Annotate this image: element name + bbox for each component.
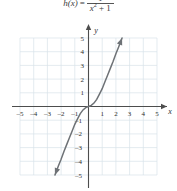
y-tick-label: –4 — [74, 158, 83, 166]
plot-area: x y –5 –4 –3 –2 –1 1 2 3 4 5 5 4 3 2 — [0, 16, 177, 191]
fraction-denominator: x2 + 1 — [87, 3, 114, 13]
equals-sign: = — [80, 0, 85, 8]
y-tick-label: –2 — [74, 130, 83, 138]
x-tick-label: –2 — [57, 110, 66, 118]
x-tick-label: 4 — [142, 110, 146, 118]
denominator-rest: + 1 — [99, 3, 111, 13]
x-axis-arrowhead — [161, 104, 167, 109]
graph-svg: x y –5 –4 –3 –2 –1 1 2 3 4 5 5 4 3 2 — [0, 16, 177, 191]
x-tick-label: 3 — [128, 110, 132, 118]
y-tick-label: 4 — [81, 48, 85, 56]
denominator-exponent: 2 — [94, 2, 97, 8]
x-tick-label: 1 — [100, 110, 104, 118]
x-tick-label: –5 — [16, 110, 25, 118]
y-tick-label: 1 — [81, 89, 85, 97]
curve-arrowhead-upper — [117, 38, 122, 46]
x-tick-label: –3 — [43, 110, 52, 118]
curve-arrowhead-lower — [55, 167, 60, 175]
y-tick-label: 3 — [81, 62, 85, 70]
y-tick-label: –5 — [74, 172, 83, 180]
x-tick-label: 2 — [114, 110, 118, 118]
function-formula: h(x)=1x2 + 1 — [0, 0, 177, 14]
function-name: h(x) — [63, 0, 78, 8]
y-tick-label: –3 — [74, 144, 83, 152]
figure-container: h(x)=1x2 + 1 — [0, 0, 177, 191]
y-axis-arrowhead — [86, 24, 91, 30]
y-axis-label: y — [93, 26, 98, 35]
fraction: 1x2 + 1 — [87, 0, 114, 14]
y-tick-label: 2 — [81, 76, 85, 84]
x-axis-label: x — [167, 107, 172, 116]
x-tick-labels: –5 –4 –3 –2 –1 1 2 3 4 5 — [16, 110, 160, 118]
x-tick-label: –4 — [29, 110, 38, 118]
x-tick-label: 5 — [155, 110, 159, 118]
y-tick-label: 5 — [81, 35, 85, 43]
